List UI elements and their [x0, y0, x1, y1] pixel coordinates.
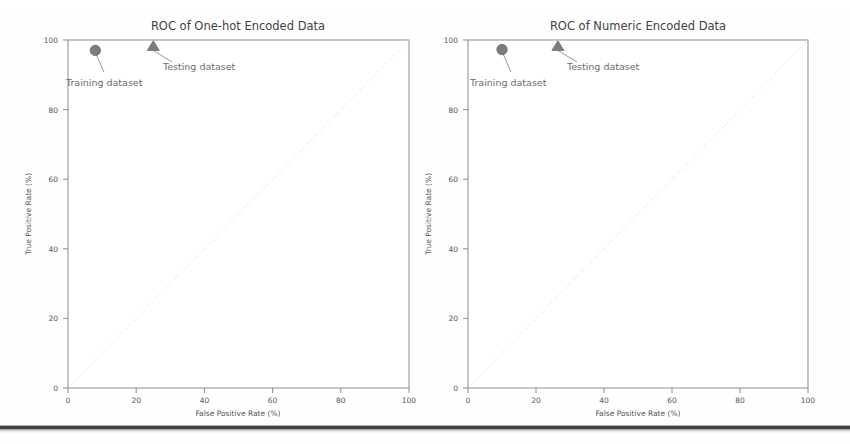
- y-tick-label: 40: [48, 245, 58, 254]
- y-tick-label: 100: [444, 36, 459, 45]
- y-axis-tick-labels: 0 20 40 60 80 100: [44, 36, 59, 393]
- testing-dataset-annotation: Testing dataset: [162, 61, 236, 72]
- x-tick-label: 0: [66, 396, 71, 405]
- y-axis-ticks: [63, 40, 68, 388]
- x-tick-label: 100: [402, 396, 417, 405]
- chart-panel-numeric: 0 20 40 60 80 100 0 20 40 60 80: [425, 0, 850, 425]
- y-axis-tick-labels: 0 20 40 60 80 100: [444, 36, 459, 393]
- x-axis-ticks: [468, 388, 808, 393]
- x-tick-label: 80: [735, 396, 745, 405]
- x-tick-label: 60: [268, 396, 278, 405]
- x-tick-label: 60: [667, 396, 677, 405]
- x-axis-tick-labels: 0 20 40 60 80 100: [66, 396, 417, 405]
- x-tick-label: 100: [801, 396, 816, 405]
- y-axis-ticks: [463, 40, 468, 388]
- training-dataset-annotation: Training dataset: [65, 77, 143, 88]
- training-dataset-marker: [497, 44, 507, 54]
- y-tick-label: 0: [453, 384, 458, 393]
- testing-dataset-annotation: Testing dataset: [566, 61, 640, 72]
- y-tick-label: 100: [44, 36, 59, 45]
- x-axis-tick-labels: 0 20 40 60 80 100: [466, 396, 816, 405]
- y-tick-label: 80: [448, 106, 458, 115]
- chart-panel-one-hot: 0 20 40 60 80 100 0 20 40 60 8: [0, 0, 425, 425]
- roc-numeric-svg: 0 20 40 60 80 100 0 20 40 60 80: [425, 0, 850, 425]
- y-tick-label: 60: [48, 175, 58, 184]
- x-tick-label: 80: [336, 396, 346, 405]
- y-axis-label: True Positive Rate (%): [425, 173, 433, 256]
- x-tick-label: 40: [200, 396, 210, 405]
- training-dataset-annotation: Training dataset: [469, 77, 547, 88]
- figure-canvas: 0 20 40 60 80 100 0 20 40 60 8: [0, 0, 850, 444]
- training-dataset-marker: [90, 45, 100, 55]
- y-tick-label: 60: [448, 175, 458, 184]
- scan-edge-shadow: [0, 430, 850, 433]
- y-tick-label: 40: [448, 245, 458, 254]
- x-axis-ticks: [68, 388, 409, 393]
- y-axis-label: True Positive Rate (%): [24, 173, 33, 256]
- top-margin: [0, 0, 850, 14]
- chart-title: ROC of Numeric Encoded Data: [550, 19, 726, 33]
- x-tick-label: 20: [531, 396, 541, 405]
- x-tick-label: 40: [599, 396, 609, 405]
- roc-one-hot-svg: 0 20 40 60 80 100 0 20 40 60 8: [0, 0, 425, 425]
- y-tick-label: 80: [48, 106, 58, 115]
- y-tick-label: 20: [448, 314, 458, 323]
- x-tick-label: 20: [131, 396, 141, 405]
- y-tick-label: 20: [48, 314, 58, 323]
- x-axis-label: False Positive Rate (%): [595, 409, 680, 418]
- x-tick-label: 0: [466, 396, 471, 405]
- y-tick-label: 0: [53, 384, 58, 393]
- x-axis-label: False Positive Rate (%): [195, 409, 280, 418]
- chart-title: ROC of One-hot Encoded Data: [151, 19, 325, 33]
